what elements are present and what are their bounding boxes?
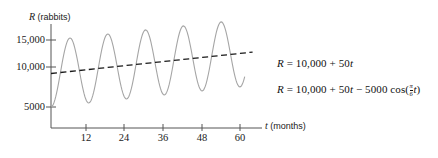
oscillating-population-curve bbox=[51, 22, 245, 107]
rabbit-population-figure: R (rabbits) 15,000 10,000 5000 12 24 36 … bbox=[0, 0, 438, 158]
linear-trend-dashed-line bbox=[51, 52, 253, 73]
plot-canvas bbox=[0, 0, 438, 158]
